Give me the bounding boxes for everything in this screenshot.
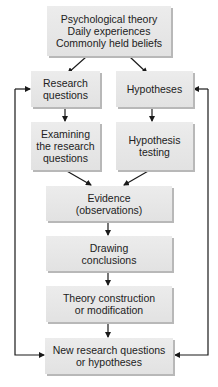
node-label: New research questions or hypotheses xyxy=(53,344,166,368)
node-sources: Psychological theory Daily experiences C… xyxy=(47,6,171,56)
node-label: Hypotheses xyxy=(127,83,182,95)
node-hypothesis-testing: Hypothesis testing xyxy=(116,122,193,170)
node-research-questions: Research questions xyxy=(31,71,100,107)
arrow-testing-to-evidence xyxy=(124,170,150,185)
node-theory-construction: Theory construction or modification xyxy=(46,286,172,322)
node-label: Psychological theory Daily experiences C… xyxy=(56,13,162,49)
node-drawing-conclusions: Drawing conclusions xyxy=(46,236,172,271)
node-label: Drawing conclusions xyxy=(82,242,137,266)
node-evidence: Evidence (observations) xyxy=(46,186,172,221)
node-hypotheses: Hypotheses xyxy=(116,71,193,107)
arrow-examining-to-evidence xyxy=(65,170,91,185)
node-label: Evidence (observations) xyxy=(76,192,143,216)
node-label: Research questions xyxy=(43,77,88,101)
node-new-questions: New research questions or hypotheses xyxy=(45,338,173,374)
node-label: Hypothesis testing xyxy=(129,134,181,158)
node-label: Theory construction or modification xyxy=(63,292,155,316)
node-examining: Examining the research questions xyxy=(31,122,100,170)
node-label: Examining the research questions xyxy=(36,128,94,164)
